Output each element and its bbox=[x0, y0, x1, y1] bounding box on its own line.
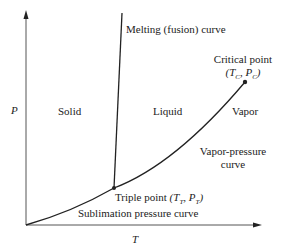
vapor-pressure-label-line1: Vapor-pressure bbox=[188, 145, 278, 158]
vapor-pressure-label-line2: curve bbox=[188, 158, 278, 171]
y-axis-arrow-icon bbox=[24, 10, 29, 19]
triple-point-marker bbox=[112, 186, 116, 190]
triple-point-title: Triple point bbox=[115, 191, 167, 203]
melting-curve-label: Melting (fusion) curve bbox=[126, 23, 226, 36]
y-axis-label: P bbox=[11, 104, 18, 117]
triple-point-coords: (TT, PT) bbox=[170, 191, 204, 203]
critical-point-title: Critical point bbox=[208, 53, 278, 66]
x-axis-arrow-icon bbox=[253, 223, 262, 228]
vapor-pressure-curve-label: Vapor-pressure curve bbox=[188, 145, 278, 171]
region-vapor-label: Vapor bbox=[232, 105, 258, 118]
critical-point-coords: (TC, PC) bbox=[208, 66, 278, 84]
triple-point-label: Triple point (TT, PT) bbox=[115, 191, 203, 209]
critical-point-label: Critical point (TC, PC) bbox=[208, 53, 278, 84]
region-solid-label: Solid bbox=[58, 105, 81, 118]
phase-diagram: P T Solid Liquid Vapor Melting (fusion) … bbox=[0, 0, 282, 246]
x-axis-label: T bbox=[132, 233, 138, 246]
region-liquid-label: Liquid bbox=[153, 105, 182, 118]
vapor-pressure-curve bbox=[114, 82, 245, 188]
melting-curve bbox=[114, 13, 122, 188]
